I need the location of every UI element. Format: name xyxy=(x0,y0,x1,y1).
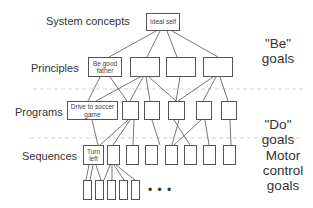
node-program-5 xyxy=(196,101,212,120)
node-sequence-6 xyxy=(184,145,197,165)
node-motor-3 xyxy=(107,180,116,200)
level-label-sequences: Sequences xyxy=(22,150,77,162)
node-motor-1 xyxy=(83,180,92,200)
node-turn-left: Turn left xyxy=(83,145,104,165)
node-program-2 xyxy=(122,101,139,120)
be-goals-label: "Be" goals xyxy=(256,36,300,66)
node-sequence-4 xyxy=(145,145,158,165)
node-principle-2 xyxy=(130,57,160,77)
ellipsis: • • • xyxy=(148,183,172,197)
node-sequence-5 xyxy=(165,145,178,165)
node-motor-2 xyxy=(95,180,104,200)
node-program-4 xyxy=(168,101,185,120)
node-motor-5 xyxy=(131,180,140,200)
motor-control-goals-label: Motor control goals xyxy=(258,148,308,193)
level-label-system-concepts: System concepts xyxy=(46,15,130,27)
do-goals-label: "Do" goals xyxy=(256,117,300,147)
node-sequence-8 xyxy=(223,145,236,165)
node-program-3 xyxy=(144,101,160,120)
node-principle-3 xyxy=(166,57,196,77)
node-sequence-3 xyxy=(126,145,139,165)
node-motor-4 xyxy=(119,180,128,200)
node-drive-to-soccer-game: Drive to soccer game xyxy=(67,101,118,120)
node-be-good-father: Be good father xyxy=(88,57,122,77)
level-label-programs: Programs xyxy=(15,106,63,118)
node-sequence-7 xyxy=(203,145,216,165)
node-principle-4 xyxy=(203,57,233,77)
node-program-6 xyxy=(221,101,237,120)
node-sequence-2 xyxy=(107,145,120,165)
level-label-principles: Principles xyxy=(31,62,79,74)
node-ideal-self: Ideal self xyxy=(146,13,180,31)
